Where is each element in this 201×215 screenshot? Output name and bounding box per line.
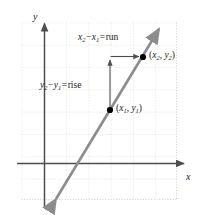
run-result: run <box>106 32 119 42</box>
data-point-1 <box>107 107 113 113</box>
y-axis-label: y <box>33 12 37 22</box>
slope-diagram-figure: y x x2−x1=run y2−y1=rise (x2, y2) (x1, y… <box>0 0 201 215</box>
run-annotation-label: x2−x1=run <box>78 33 118 43</box>
data-point-2 <box>140 54 146 60</box>
x-axis-label: x <box>186 172 190 182</box>
point-1-label: (x1, y1) <box>116 104 142 114</box>
p1-comma: , <box>127 103 129 113</box>
rise-annotation-label: y2−y1=rise <box>40 81 81 91</box>
rise-result: rise <box>68 80 82 90</box>
point-2-label: (x2, y2) <box>149 51 175 61</box>
paren-close: ) <box>172 50 175 60</box>
p2-comma: , <box>160 50 162 60</box>
paren-close: ) <box>139 103 142 113</box>
